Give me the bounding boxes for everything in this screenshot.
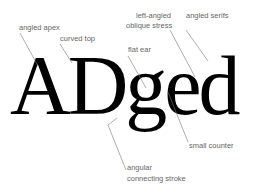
leader-angled-serifs <box>186 30 208 61</box>
leader-flat-ear <box>128 56 146 88</box>
leader-small-counter <box>168 92 188 142</box>
label-connecting-stroke-line1: angular <box>127 163 152 172</box>
label-oblique-stress-line1: left-angled <box>136 11 171 20</box>
label-small-counter: small counter <box>189 141 234 150</box>
label-curved-top: curved top <box>60 34 95 43</box>
label-angled-apex: angled apex <box>19 23 60 32</box>
leader-curved-top <box>60 44 72 63</box>
leader-connecting-stroke <box>108 118 126 170</box>
label-flat-ear: flat ear <box>128 45 151 54</box>
label-angled-serifs: angled serifs <box>186 11 229 20</box>
leader-angled-apex <box>20 33 38 66</box>
label-connecting-stroke-line2: connecting stroke <box>127 174 186 183</box>
label-oblique-stress-line2: oblique stress <box>126 21 172 30</box>
